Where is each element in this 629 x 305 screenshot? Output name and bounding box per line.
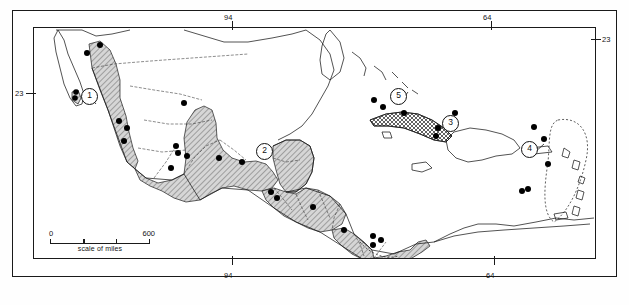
scale-bar-max-label: 600 [142,229,155,238]
scale-bar-tick-1 [83,239,84,243]
scale-bar-line [50,239,150,244]
graticule-label-right-23: 23 [602,35,611,44]
graticule-tick-bottom-64 [494,256,495,265]
graticule-tick-top-94 [232,21,233,30]
region-marker-1[interactable]: 1 [81,88,98,105]
graticule-tick-right-23 [591,39,601,40]
map-canvas [34,28,596,259]
region-marker-4[interactable]: 4 [521,141,538,158]
graticule-tick-left-23 [26,93,36,94]
graticule-tick-bottom-94 [232,256,233,265]
distribution-map-figure: 94 64 23 23 94 64 1 2 3 4 5 0 600 scale … [0,0,629,305]
graticule-tick-top-64 [491,21,492,30]
region-marker-2[interactable]: 2 [256,143,273,160]
region-marker-3[interactable]: 3 [442,115,459,132]
graticule-label-left-23: 23 [15,89,24,98]
graticule-label-bottom-94: 94 [224,271,233,280]
scale-bar: 0 600 scale of miles [50,239,150,252]
figure-caption-partial [0,288,629,305]
graticule-label-bottom-64: 64 [486,271,495,280]
region-marker-5[interactable]: 5 [390,88,407,105]
scale-bar-caption: scale of miles [50,245,150,252]
scale-bar-tick-2 [116,239,117,243]
inner-map-neatline [33,27,596,259]
leader-lines [89,92,544,153]
scale-bar-min-label: 0 [49,229,53,238]
region-4-enclosure [545,119,588,222]
